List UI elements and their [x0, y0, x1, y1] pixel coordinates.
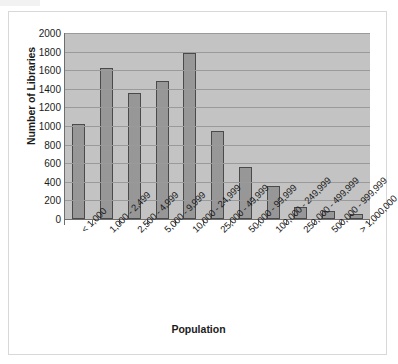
gridline — [65, 126, 370, 127]
y-axis-tick-label: 1800 — [29, 46, 61, 57]
plot-area — [64, 33, 370, 220]
y-axis-tick-label: 2000 — [29, 28, 61, 39]
gridline — [65, 33, 370, 34]
gridline — [65, 70, 370, 71]
gridline — [65, 107, 370, 108]
gridline — [65, 89, 370, 90]
x-axis-tick-labels: < 1,0001,000 - 2,4992,500 - 4,9995,000 -… — [9, 225, 388, 320]
x-axis-title: Population — [9, 323, 388, 335]
y-axis-tick-label: 1400 — [29, 83, 61, 94]
y-axis-tick-label: 400 — [29, 176, 61, 187]
scan-artifact — [0, 0, 40, 6]
y-axis-tick-label: 0 — [29, 214, 61, 225]
y-axis-tick-label: 800 — [29, 139, 61, 150]
y-axis-tick-label: 1000 — [29, 121, 61, 132]
y-axis-tick-labels: 2000180016001400120010008006004002000 — [29, 26, 61, 218]
y-axis-tick-label: 600 — [29, 158, 61, 169]
bar[interactable] — [72, 124, 85, 219]
gridline — [65, 163, 370, 164]
chart-frame: Number of Libraries 20001800160014001200… — [8, 11, 387, 355]
bar[interactable] — [100, 68, 113, 219]
y-axis-tick-label: 1600 — [29, 65, 61, 76]
y-axis-tick-label: 200 — [29, 195, 61, 206]
gridline — [65, 145, 370, 146]
y-axis-tick-label: 1200 — [29, 102, 61, 113]
gridline — [65, 52, 370, 53]
